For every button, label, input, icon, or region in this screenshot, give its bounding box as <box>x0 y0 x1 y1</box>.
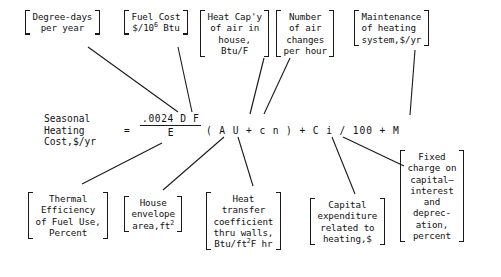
annotation-heat-capacity: Heat Cap'y of air in house, Btu/F <box>200 10 269 57</box>
connector-U-to-heat-transfer <box>238 137 253 186</box>
fraction-denominator: E <box>140 126 201 138</box>
annotation-maintenance: Maintenance of heating system,$/yr <box>354 10 429 46</box>
connector-E-to-thermal-efficiency <box>82 143 162 184</box>
bracket-right <box>379 198 385 245</box>
bracket-left <box>28 192 34 239</box>
annotation-house-envelope-text: House envelope area,ft2 <box>130 196 176 232</box>
annotation-heat-capacity-text: Heat Cap'y of air in house, Btu/F <box>206 10 263 57</box>
bracket-left <box>200 10 206 57</box>
bracket-right <box>458 150 464 242</box>
bracket-left <box>310 198 316 245</box>
equals-sign: = <box>124 125 130 136</box>
bracket-right <box>423 10 429 46</box>
annotation-fixed-charge: Fixed charge on capital— interest and de… <box>400 150 464 242</box>
annotation-capital-expenditure: Capital expenditure related to heating,$ <box>310 198 385 245</box>
exponent-2: 2 <box>170 219 174 227</box>
annotation-air-changes: Number of air changes per hour <box>276 10 334 57</box>
bracket-left <box>124 196 130 232</box>
bracket-left <box>206 192 212 250</box>
bracket-right <box>102 192 108 239</box>
annotation-capital-expenditure-text: Capital expenditure related to heating,$ <box>316 198 379 245</box>
bracket-right <box>328 10 334 57</box>
annotation-degree-days-text: Degree-days per year <box>31 10 94 35</box>
connector-fuel-cost-to-F <box>178 47 192 112</box>
connector-heat-capacity-to-c <box>250 58 264 114</box>
bracket-left <box>25 10 31 35</box>
equation-left-side: Seasonal Heating Cost,$/yr <box>44 113 96 148</box>
bracket-right <box>94 10 100 35</box>
fraction: .0024 D F E <box>140 113 201 138</box>
connector-i-to-fixed-charge <box>343 137 404 166</box>
annotation-degree-days: Degree-days per year <box>25 10 100 35</box>
bracket-left <box>354 10 360 46</box>
annotation-heat-transfer-coefficient: Heat transfer coefficient thru walls, Bt… <box>206 192 281 250</box>
connector-maintenance-to-M <box>410 50 415 115</box>
bracket-right <box>182 10 188 35</box>
bracket-right <box>263 10 269 57</box>
annotation-thermal-efficiency: Thermal Efficiency of Fuel Use, Percent <box>28 192 108 239</box>
bracket-right <box>275 192 281 250</box>
bracket-left <box>276 10 282 57</box>
connector-C-to-capital-expenditure <box>332 137 355 194</box>
annotation-heat-transfer-text: Heat transfer coefficient thru walls, Bt… <box>212 192 275 250</box>
connector-air-changes-to-n <box>264 58 290 114</box>
bracket-right <box>176 196 182 232</box>
fraction-numerator: .0024 D F <box>140 113 201 125</box>
annotation-thermal-efficiency-text: Thermal Efficiency of Fuel Use, Percent <box>34 192 102 239</box>
annotation-house-envelope: House envelope area,ft2 <box>124 196 182 232</box>
annotation-maintenance-text: Maintenance of heating system,$/yr <box>360 10 423 46</box>
annotation-fuel-cost: Fuel Cost $/106 Btu <box>124 10 188 35</box>
annotation-fuel-cost-text: Fuel Cost $/106 Btu <box>130 10 182 35</box>
bracket-left <box>124 10 130 35</box>
connector-A-to-house-envelope <box>163 137 224 190</box>
equation-diagram: Degree-days per year Fuel Cost $/106 Btu… <box>0 0 501 277</box>
annotation-air-changes-text: Number of air changes per hour <box>282 10 328 57</box>
equation-right-side: ( A U + c n ) + C i / 100 + M <box>206 125 400 136</box>
connector-degree-days-to-D <box>88 47 178 112</box>
annotation-fixed-charge-text: Fixed charge on capital— interest and de… <box>406 150 458 242</box>
bracket-left <box>400 150 406 242</box>
